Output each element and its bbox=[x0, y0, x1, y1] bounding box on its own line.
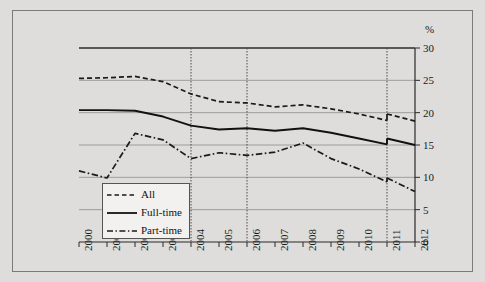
legend-label-all: All bbox=[141, 189, 155, 200]
x-axis-tick-2012: 2012 bbox=[419, 229, 430, 251]
chart-frame: % 051015202530 2000200120022003200420052… bbox=[12, 10, 473, 272]
legend-item-part-time: Part-time bbox=[107, 222, 182, 239]
legend-item-all: All bbox=[107, 186, 155, 203]
y-axis-tick-30: 30 bbox=[423, 43, 434, 54]
y-axis-unit-label: % bbox=[425, 24, 434, 35]
y-axis-tick-25: 25 bbox=[423, 75, 434, 86]
y-axis-tick-5: 5 bbox=[423, 204, 429, 215]
series-line-part-time-seg2 bbox=[387, 178, 415, 192]
y-axis-tick-20: 20 bbox=[423, 107, 434, 118]
chart-legend: All Full-time Part-time bbox=[102, 183, 190, 239]
legend-swatch-dashed-icon bbox=[107, 190, 137, 200]
legend-swatch-solid-icon bbox=[107, 208, 137, 218]
legend-label-part-time: Part-time bbox=[141, 225, 182, 236]
y-axis-tick-10: 10 bbox=[423, 172, 434, 183]
legend-item-full-time: Full-time bbox=[107, 204, 182, 221]
series-line-all-seg1 bbox=[79, 76, 387, 120]
chart-figure: % 051015202530 2000200120022003200420052… bbox=[0, 0, 485, 282]
legend-label-full-time: Full-time bbox=[141, 207, 182, 218]
legend-swatch-dash-dot-icon bbox=[107, 226, 137, 236]
y-axis-tick-15: 15 bbox=[423, 140, 434, 151]
series-line-full-time-seg2 bbox=[387, 139, 415, 145]
series-line-full-time-seg1 bbox=[79, 110, 387, 144]
series-line-all-seg2 bbox=[387, 114, 415, 121]
series-line-part-time-seg1 bbox=[79, 133, 387, 182]
